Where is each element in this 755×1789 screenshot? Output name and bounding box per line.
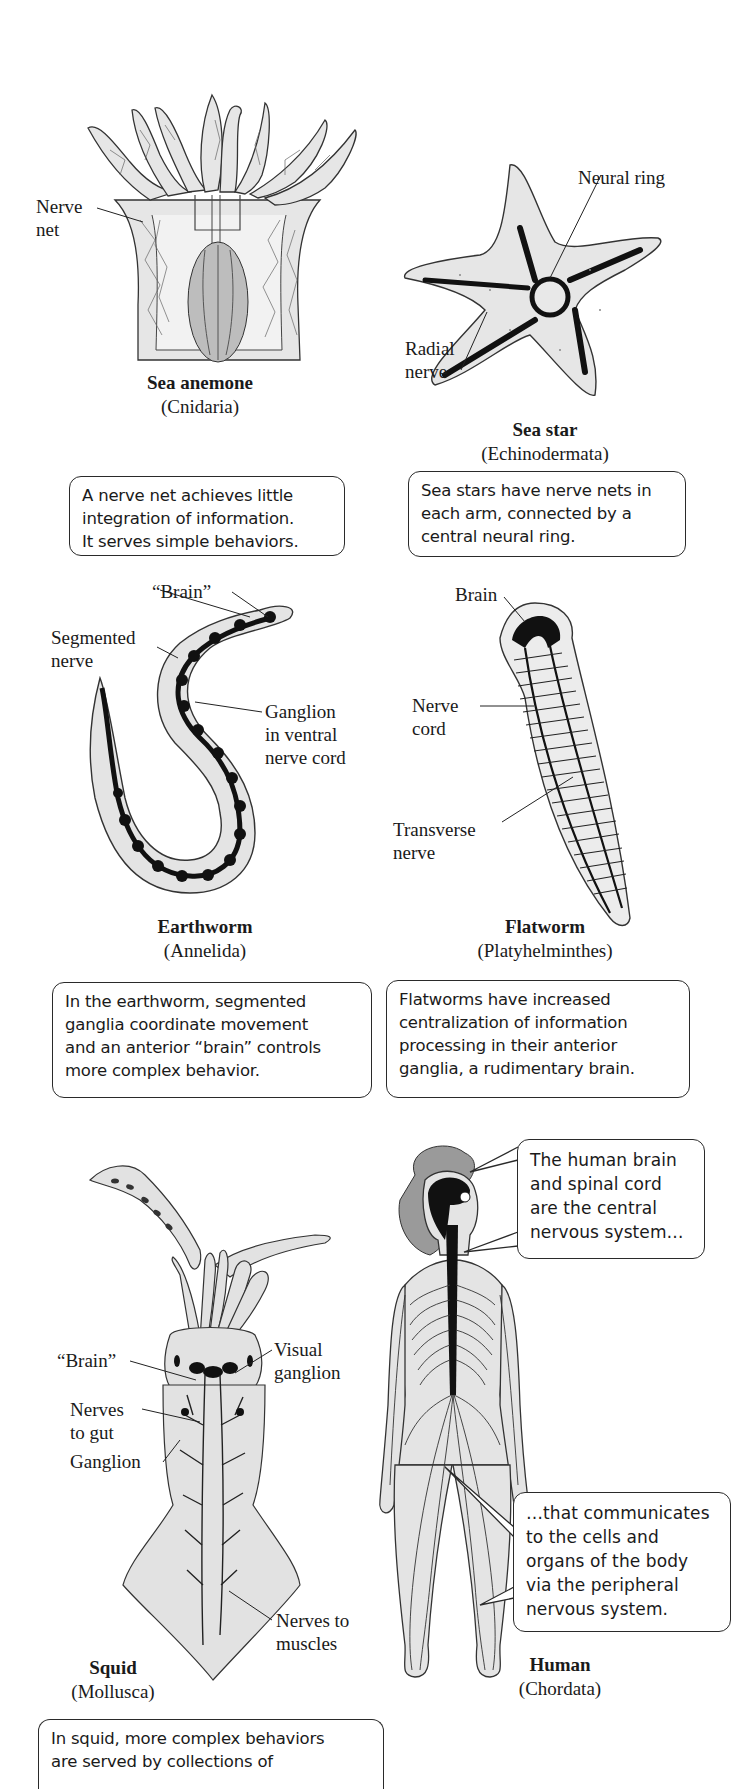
human-title: Human (Chordata) xyxy=(505,1653,615,1701)
human-pns-callout: …that communicates to the cells and orga… xyxy=(513,1492,731,1632)
phylum-name: (Chordata) xyxy=(519,1678,601,1699)
organism-name: Human xyxy=(505,1653,615,1677)
human-cns-callout: The human brain and spinal cord are the … xyxy=(517,1139,705,1259)
